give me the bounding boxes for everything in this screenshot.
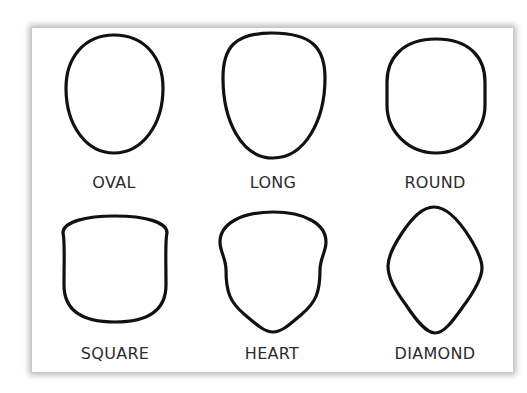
diamond-face-outline [388,207,482,333]
heart-face-outline [220,212,326,332]
square-label: SQUARE [81,344,149,363]
heart-label: HEART [245,344,299,363]
long-label: LONG [250,173,297,192]
long-face-outline [223,33,325,158]
round-face-outline [387,39,485,153]
square-face-outline [63,216,167,322]
diamond-label: DIAMOND [395,344,476,363]
oval-label: OVAL [92,173,135,192]
face-shapes-diagram [0,0,527,393]
round-label: ROUND [404,173,465,192]
oval-face-outline [66,35,163,153]
